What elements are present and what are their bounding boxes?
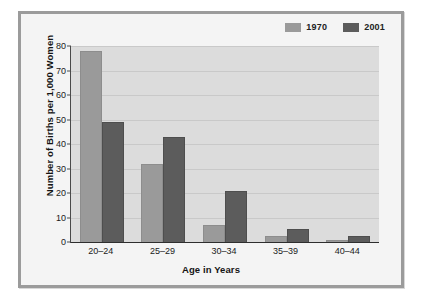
bar-2001-30-34[interactable] <box>225 191 247 242</box>
bar-1970-35-39[interactable] <box>265 236 287 242</box>
figure-inner: 1970 2001 Number of Births per 1,000 Wom… <box>21 14 401 285</box>
x-axis-ticks: 20–2425–2930–3435–3940–44 <box>70 246 378 256</box>
bar-2001-35-39[interactable] <box>287 229 309 242</box>
y-tick-label: 40 <box>56 139 66 149</box>
x-axis-title: Age in Years <box>21 264 401 275</box>
bar-group <box>317 46 379 242</box>
y-tick-label: 50 <box>56 115 66 125</box>
figure-root: 1970 2001 Number of Births per 1,000 Wom… <box>0 0 422 306</box>
y-tick-label: 20 <box>56 188 66 198</box>
x-tick-label: 40–44 <box>316 246 378 256</box>
bar-group <box>256 46 318 242</box>
bar-series-layer <box>71 46 379 242</box>
x-tick-label: 30–34 <box>193 246 255 256</box>
legend-swatch-1970 <box>285 23 301 32</box>
bar-1970-30-34[interactable] <box>203 225 225 242</box>
y-tick-label: 80 <box>56 41 66 51</box>
legend-entry-2001: 2001 <box>343 23 385 32</box>
bar-1970-20-24[interactable] <box>80 51 102 242</box>
y-tick-label: 60 <box>56 90 66 100</box>
y-tick-label: 70 <box>56 66 66 76</box>
legend-label-1970: 1970 <box>306 23 327 32</box>
bar-1970-40-44[interactable] <box>326 240 348 242</box>
x-tick-label: 35–39 <box>255 246 317 256</box>
x-tick-label: 25–29 <box>132 246 194 256</box>
legend-label-2001: 2001 <box>364 23 385 32</box>
plot-area: 80706050403020100 <box>70 46 379 243</box>
legend-entry-1970: 1970 <box>285 23 327 32</box>
bar-2001-25-29[interactable] <box>163 137 185 242</box>
bar-1970-25-29[interactable] <box>141 164 163 242</box>
chart-legend: 1970 2001 <box>285 23 385 32</box>
y-tick-label: 30 <box>56 164 66 174</box>
bar-group <box>133 46 195 242</box>
bar-2001-20-24[interactable] <box>102 122 124 242</box>
bar-group <box>71 46 133 242</box>
legend-swatch-2001 <box>343 23 359 32</box>
bar-2001-40-44[interactable] <box>348 236 370 242</box>
y-tick-label: 0 <box>61 237 66 247</box>
bar-group <box>194 46 256 242</box>
y-axis-title: Number of Births per 1,000 Women <box>44 26 55 206</box>
x-tick-label: 20–24 <box>70 246 132 256</box>
y-tick-label: 10 <box>56 213 66 223</box>
figure-frame: 1970 2001 Number of Births per 1,000 Wom… <box>18 11 404 288</box>
